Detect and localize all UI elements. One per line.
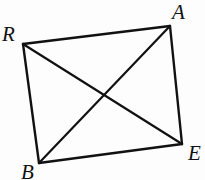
- diagonal-R-E: [23, 44, 182, 144]
- vertex-label-e: E: [188, 143, 201, 164]
- quadrilateral-drawing: [0, 0, 205, 180]
- edge-R-A: [23, 26, 170, 44]
- vertex-label-r: R: [2, 24, 15, 45]
- edge-B-R: [23, 44, 39, 163]
- geometry-figure: A R B E: [0, 0, 205, 180]
- vertex-label-b: B: [21, 162, 34, 180]
- diagonal-A-B: [39, 26, 170, 163]
- edge-A-E: [170, 26, 182, 144]
- edge-E-B: [39, 144, 182, 163]
- vertex-label-a: A: [172, 2, 185, 23]
